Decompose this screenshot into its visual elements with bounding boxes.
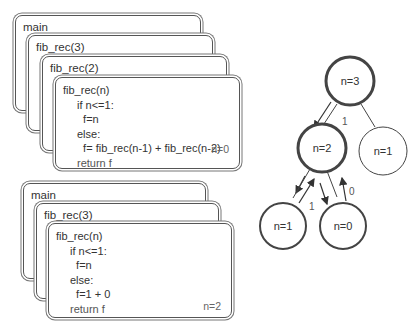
tree-node-n2: n=2 [298, 124, 346, 172]
svg-text:n=1: n=1 [374, 145, 393, 157]
edge-n3-n1 [361, 104, 375, 127]
edge-label: 1 [309, 201, 315, 212]
svg-text:n=0: n=0 [334, 220, 353, 232]
tree-node-n1-left: n=1 [260, 203, 306, 249]
tree-node-n0: n=0 [320, 203, 366, 249]
recursion-tree: 1 1 0 n=3 n=2 n=1 n=1 n=0 [0, 0, 415, 336]
svg-text:n=2: n=2 [313, 142, 332, 154]
svg-text:n=1: n=1 [274, 220, 293, 232]
tree-node-n1-right: n=1 [359, 127, 407, 175]
edge-n2-n0 [320, 171, 346, 204]
edge-n2-n1 [293, 169, 314, 203]
edge-label: 1 [342, 116, 348, 127]
svg-text:n=3: n=3 [341, 75, 360, 87]
edge-label: 0 [349, 186, 355, 197]
tree-node-n3: n=3 [326, 57, 374, 105]
